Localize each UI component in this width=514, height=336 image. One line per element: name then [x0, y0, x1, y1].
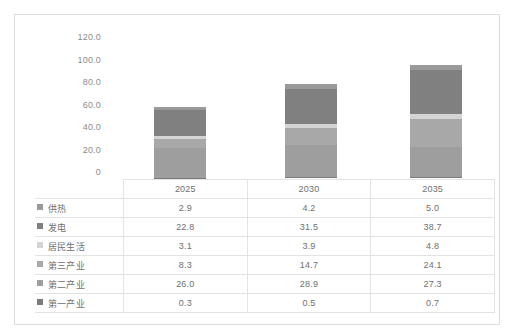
legend-swatch-icon	[37, 242, 43, 248]
table-cell: 31.5	[247, 218, 371, 237]
legend-label-text: 第三产业	[48, 261, 85, 271]
bar-segment[interactable]	[410, 177, 462, 178]
y-axis-tick-label: 20.0	[45, 145, 101, 155]
table-row: 第二产业26.028.927.3	[35, 275, 495, 294]
legend-swatch-icon	[37, 280, 43, 286]
plot-area: 020.040.060.080.0100.0120.0	[15, 15, 499, 178]
table-cell: 26.0	[124, 275, 248, 294]
table-row: 第三产业8.314.724.1	[35, 256, 495, 275]
y-axis-tick-label: 100.0	[45, 55, 101, 65]
bar-segment[interactable]	[154, 139, 206, 148]
table-cell: 22.8	[124, 218, 248, 237]
legend-row-label: 第一产业	[35, 294, 124, 313]
table-column-header: 2030	[247, 180, 371, 199]
bar-column[interactable]	[285, 21, 337, 178]
table-cell: 38.7	[371, 218, 495, 237]
data-table-body: 202520302035供热2.94.25.0发电22.831.538.7居民生…	[35, 180, 495, 313]
table-corner-cell	[35, 180, 124, 199]
bar-segment[interactable]	[285, 89, 337, 124]
bar-segment[interactable]	[154, 148, 206, 177]
table-cell: 5.0	[371, 199, 495, 218]
legend-row-label: 供热	[35, 199, 124, 218]
table-cell: 0.5	[247, 294, 371, 313]
legend-row-label: 发电	[35, 218, 124, 237]
table-cell: 14.7	[247, 256, 371, 275]
table-cell: 24.1	[371, 256, 495, 275]
legend-swatch-icon	[37, 299, 43, 305]
table-row: 发电22.831.538.7	[35, 218, 495, 237]
table-column-header: 2035	[371, 180, 495, 199]
chart-frame: 020.040.060.080.0100.0120.0 202520302035…	[14, 14, 500, 325]
legend-row-label: 第三产业	[35, 256, 124, 275]
table-cell: 3.9	[247, 237, 371, 256]
legend-swatch-icon	[37, 223, 43, 229]
table-cell: 2.9	[124, 199, 248, 218]
bar-segment[interactable]	[410, 119, 462, 146]
table-column-header: 2025	[124, 180, 248, 199]
legend-label-text: 供热	[48, 204, 66, 214]
table-cell: 4.2	[247, 199, 371, 218]
table-cell: 28.9	[247, 275, 371, 294]
legend-row-label: 居民生活	[35, 237, 124, 256]
y-axis-tick-label: 120.0	[45, 32, 101, 42]
y-axis-tick-label: 40.0	[45, 122, 101, 132]
bar-column[interactable]	[154, 21, 206, 178]
table-row: 第一产业0.30.50.7	[35, 294, 495, 313]
bar-segment[interactable]	[285, 128, 337, 145]
table-cell: 8.3	[124, 256, 248, 275]
table-row: 供热2.94.25.0	[35, 199, 495, 218]
bar-segment[interactable]	[154, 110, 206, 136]
bar-segment[interactable]	[285, 145, 337, 178]
legend-label-text: 发电	[48, 223, 66, 233]
table-header-row: 202520302035	[35, 180, 495, 199]
y-axis-tick-label: 60.0	[45, 100, 101, 110]
data-table: 202520302035供热2.94.25.0发电22.831.538.7居民生…	[35, 179, 495, 313]
table-cell: 27.3	[371, 275, 495, 294]
table-cell: 0.3	[124, 294, 248, 313]
legend-label-text: 第一产业	[48, 299, 85, 309]
legend-label-text: 第二产业	[48, 280, 85, 290]
y-axis: 020.040.060.080.0100.0120.0	[39, 15, 101, 178]
legend-swatch-icon	[37, 261, 43, 267]
bar-segment[interactable]	[285, 177, 337, 178]
y-axis-tick-label: 80.0	[45, 77, 101, 87]
bar-segment[interactable]	[410, 147, 462, 178]
bar-series-area	[111, 15, 499, 178]
table-cell: 3.1	[124, 237, 248, 256]
legend-swatch-icon	[37, 204, 43, 210]
table-cell: 4.8	[371, 237, 495, 256]
bar-column[interactable]	[410, 21, 462, 178]
table-row: 居民生活3.13.94.8	[35, 237, 495, 256]
legend-label-text: 居民生活	[48, 242, 85, 252]
table-cell: 0.7	[371, 294, 495, 313]
y-axis-tick-label: 0	[45, 167, 101, 177]
legend-row-label: 第二产业	[35, 275, 124, 294]
bar-segment[interactable]	[410, 70, 462, 114]
